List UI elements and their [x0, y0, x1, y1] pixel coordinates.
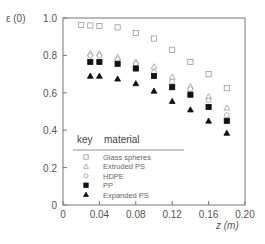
data-points — [79, 22, 230, 135]
filled-triangle-marker — [151, 88, 157, 93]
open-square-marker — [170, 47, 175, 52]
filled-square-marker — [97, 59, 102, 64]
filled-triangle-marker — [133, 81, 139, 86]
open-circle-marker — [224, 113, 229, 118]
open-square-marker — [97, 23, 102, 28]
open-triangle-marker — [151, 64, 157, 69]
open-circle-marker — [188, 87, 193, 92]
y-axis-label: ε (0) — [6, 13, 25, 24]
filled-triangle-marker — [169, 98, 175, 103]
open-square-marker — [224, 86, 229, 91]
filled-square-marker — [88, 59, 93, 64]
open-triangle-marker — [224, 105, 230, 110]
filled-triangle-marker — [188, 107, 194, 112]
open-square-marker — [84, 155, 88, 159]
open-triangle-marker — [84, 164, 89, 168]
filled-square-marker — [84, 183, 88, 187]
y-tick-label: 0.2 — [43, 163, 57, 174]
y-tick-label: 1.0 — [43, 13, 57, 24]
filled-triangle-marker — [84, 192, 89, 196]
legend-header-key: key — [77, 134, 93, 145]
open-triangle-marker — [169, 74, 175, 79]
filled-square-marker — [224, 118, 229, 123]
open-circle-marker — [206, 98, 211, 103]
filled-square-marker — [206, 104, 211, 109]
filled-square-marker — [188, 92, 193, 97]
legend: keymaterialGlass spheresExtruded PSHDPEP… — [73, 134, 184, 200]
open-circle-marker — [97, 53, 102, 58]
open-circle-marker — [170, 79, 175, 84]
x-tick-label: 0.08 — [126, 209, 146, 220]
legend-label: Glass spheres — [103, 153, 151, 162]
open-circle-marker — [84, 174, 88, 178]
x-tick-label: 0.16 — [199, 209, 219, 220]
open-square-marker — [115, 25, 120, 30]
x-tick-label: 0.12 — [162, 209, 182, 220]
open-square-marker — [88, 23, 93, 28]
x-tick-label: 0.04 — [90, 209, 110, 220]
filled-square-marker — [115, 61, 120, 66]
open-circle-marker — [133, 61, 138, 66]
filled-triangle-marker — [224, 130, 230, 135]
y-tick-label: 0.6 — [43, 88, 57, 99]
filled-square-marker — [170, 85, 175, 90]
x-tick-label: 0.20 — [235, 209, 255, 220]
open-square-marker — [151, 36, 156, 41]
open-circle-marker — [88, 53, 93, 58]
legend-label: Expanded PS — [103, 191, 149, 200]
open-square-marker — [188, 59, 193, 64]
filled-triangle-marker — [115, 76, 121, 81]
y-tick-label: 0 — [51, 200, 57, 211]
open-square-marker — [206, 72, 211, 77]
legend-label: Extruded PS — [103, 162, 145, 171]
y-tick-label: 0.8 — [43, 50, 57, 61]
filled-triangle-marker — [97, 73, 103, 78]
axes: 00.20.40.60.81.000.040.080.120.160.20 — [43, 13, 255, 220]
open-square-marker — [133, 30, 138, 35]
y-tick-label: 0.4 — [43, 125, 57, 136]
legend-label: HDPE — [103, 172, 124, 181]
open-circle-marker — [115, 57, 120, 62]
filled-square-marker — [133, 66, 138, 71]
x-tick-label: 0 — [60, 209, 66, 220]
open-square-marker — [79, 22, 84, 27]
legend-label: PP — [103, 181, 113, 190]
legend-header-material: material — [104, 134, 140, 145]
chart: 00.20.40.60.81.000.040.080.120.160.20 ke… — [0, 0, 265, 244]
filled-triangle-marker — [87, 73, 93, 78]
filled-triangle-marker — [206, 118, 212, 123]
filled-square-marker — [151, 73, 156, 78]
plot-frame — [63, 18, 245, 205]
x-axis-label: z (m) — [215, 220, 239, 231]
